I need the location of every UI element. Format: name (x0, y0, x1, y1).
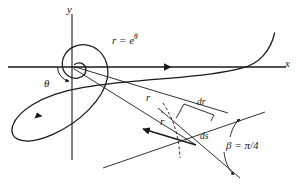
r-hat-caret: ˆ (161, 111, 164, 120)
x-axis-label: x (285, 58, 290, 69)
constant-r-arc (163, 103, 180, 158)
beta-arc-upper (230, 119, 240, 137)
y-axis-label: y (67, 4, 72, 15)
dr-label: dr (197, 98, 205, 108)
spiral-equation-label: r = eθ (112, 33, 138, 46)
spiral-figure: y x r = eθ θ r ˆr dr ds β = π/4 (0, 0, 296, 191)
dr-tick-inner (176, 110, 181, 118)
theta-label: θ (44, 78, 49, 89)
radius-label: r (146, 92, 150, 103)
beta-label: β = π/4 (226, 140, 258, 151)
r-hat-label: ˆr (160, 116, 164, 127)
dr-bracket-right (211, 115, 214, 121)
equation-base: r = e (112, 34, 134, 46)
x-axis-direction-arrow (164, 63, 172, 71)
r-hat-vector (143, 129, 196, 145)
spiral-direction-arrow (34, 113, 42, 119)
ds-label: ds (200, 132, 208, 142)
equation-exponent: θ (134, 32, 138, 41)
r-hat-arrow-line (143, 129, 196, 145)
